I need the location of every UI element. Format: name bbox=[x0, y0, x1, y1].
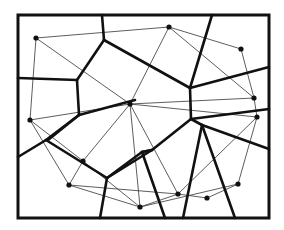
site-point-p1 bbox=[33, 35, 38, 40]
delaunay-edge bbox=[69, 185, 178, 194]
site-point-p3 bbox=[238, 46, 243, 51]
voronoi-edge bbox=[202, 125, 235, 218]
voronoi-edge bbox=[18, 78, 77, 80]
site-point-p9 bbox=[66, 182, 71, 187]
voronoi-edge bbox=[191, 119, 202, 125]
delaunay-edge bbox=[254, 98, 257, 117]
delaunay-triangulation bbox=[30, 27, 257, 207]
site-point-p12 bbox=[204, 195, 209, 200]
voronoi-edge bbox=[183, 125, 202, 218]
delaunay-edge bbox=[30, 120, 83, 161]
voronoi-edge bbox=[18, 140, 46, 157]
site-point-p5 bbox=[251, 95, 256, 100]
site-points bbox=[27, 24, 259, 209]
delaunay-edge bbox=[238, 117, 257, 184]
delaunay-edge bbox=[69, 161, 83, 185]
delaunay-edge bbox=[130, 98, 254, 104]
site-point-p10 bbox=[137, 204, 142, 209]
voronoi-edge bbox=[100, 178, 107, 218]
bounding-frame bbox=[18, 15, 269, 218]
site-point-p2 bbox=[166, 24, 171, 29]
voronoi-edge bbox=[77, 80, 79, 115]
delaunay-edge bbox=[130, 104, 257, 117]
voronoi-edge bbox=[104, 40, 190, 88]
voronoi-diagram bbox=[0, 0, 284, 230]
site-point-p7 bbox=[27, 117, 32, 122]
delaunay-edge bbox=[30, 120, 69, 185]
voronoi-edge bbox=[190, 88, 191, 119]
voronoi-edge bbox=[202, 125, 269, 149]
site-point-p13 bbox=[235, 181, 240, 186]
voronoi-cells bbox=[18, 15, 269, 218]
voronoi-edge bbox=[102, 15, 104, 40]
site-point-p6 bbox=[254, 114, 259, 119]
voronoi-edge bbox=[48, 115, 79, 140]
voronoi-edge bbox=[190, 67, 269, 88]
voronoi-edge bbox=[142, 152, 165, 218]
site-point-p4 bbox=[127, 101, 132, 106]
voronoi-edge bbox=[152, 119, 191, 150]
voronoi-edge bbox=[77, 40, 104, 80]
voronoi-edge bbox=[190, 15, 212, 88]
site-point-p8 bbox=[80, 158, 85, 163]
site-point-p11 bbox=[175, 191, 180, 196]
delaunay-edge bbox=[169, 27, 254, 98]
